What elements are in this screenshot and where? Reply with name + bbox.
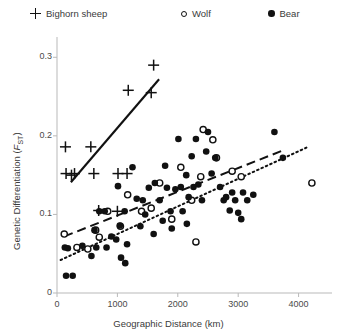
x-tick-label: 2000	[164, 299, 192, 309]
data-point-bear	[118, 254, 125, 261]
data-point-bear	[63, 272, 70, 279]
data-point-wolf	[178, 164, 184, 170]
data-point-bear	[65, 245, 72, 252]
y-axis-symbol-f: F	[11, 145, 22, 151]
data-point-bighorn-sheep	[85, 141, 96, 152]
y-tick-label: 0	[24, 287, 52, 297]
scatter-plot-figure: Bighorn sheep Wolf Bear Geographic Dista…	[0, 0, 337, 333]
data-point-bear	[175, 136, 182, 143]
data-point-bear	[205, 129, 212, 136]
y-tick-label: 0.3	[24, 51, 52, 61]
data-point-bear	[184, 221, 191, 228]
data-point-bighorn-sheep	[146, 87, 157, 98]
data-point-bighorn-sheep	[66, 170, 77, 181]
data-point-bear	[167, 208, 174, 215]
data-point-bear	[250, 191, 257, 198]
data-point-wolf	[169, 216, 175, 222]
x-axis-title: Geographic Distance (km)	[0, 318, 337, 329]
data-point-bear	[178, 184, 185, 191]
data-point-bear	[212, 155, 219, 162]
data-point-bear	[223, 194, 230, 201]
data-point-bear	[199, 197, 206, 204]
data-point-bear	[203, 148, 210, 155]
data-point-bighorn-sheep	[88, 168, 99, 179]
data-point-bear	[113, 236, 120, 243]
data-point-bear	[162, 162, 169, 169]
data-point-bear	[91, 227, 98, 234]
data-point-bear	[150, 231, 157, 238]
y-axis-subscript-st: ST	[17, 136, 24, 145]
y-axis-title-close: )	[11, 132, 22, 135]
data-point-wolf	[61, 231, 67, 237]
data-point-bear	[133, 195, 140, 202]
trendline-bear	[61, 148, 307, 260]
data-point-bighorn-sheep	[112, 206, 123, 217]
data-point-bear	[168, 225, 175, 232]
data-point-wolf	[193, 239, 199, 245]
data-point-bear	[188, 153, 195, 160]
x-tick-label: 1000	[103, 299, 131, 309]
data-point-bear	[235, 210, 242, 217]
data-point-bear	[159, 217, 166, 224]
y-tick-label: 0.2	[24, 130, 52, 140]
data-point-bear	[146, 184, 153, 191]
data-point-bear	[103, 244, 110, 251]
data-point-wolf	[125, 192, 131, 198]
data-point-bear	[88, 253, 95, 260]
x-tick-label: 3000	[224, 299, 252, 309]
data-point-bear	[152, 180, 159, 187]
data-point-bear	[183, 172, 190, 179]
data-point-wolf	[238, 174, 244, 180]
data-point-bear	[139, 197, 146, 204]
data-point-bear	[156, 197, 163, 204]
data-point-bear	[280, 155, 287, 162]
trendline-bighorn-sheep	[71, 79, 159, 182]
data-point-wolf	[229, 168, 235, 174]
data-point-bear	[240, 189, 247, 196]
data-point-bear	[179, 208, 186, 215]
data-point-bear	[129, 164, 136, 171]
data-point-bear	[79, 243, 86, 250]
data-point-bighorn-sheep	[148, 60, 159, 71]
data-point-bighorn-sheep	[60, 141, 71, 152]
data-point-bear	[238, 216, 245, 223]
data-point-bear	[229, 189, 236, 196]
data-point-bear	[115, 183, 122, 190]
data-point-bighorn-sheep	[123, 85, 134, 96]
data-point-wolf	[96, 234, 102, 240]
data-point-bear	[121, 208, 128, 215]
data-point-bear	[271, 129, 278, 136]
data-point-bear	[101, 208, 108, 215]
data-point-bear	[185, 194, 192, 201]
data-point-bear	[142, 211, 149, 218]
data-point-bear	[232, 197, 239, 204]
data-point-bear	[193, 136, 200, 143]
data-point-bear	[93, 244, 100, 251]
y-tick-label: 0.1	[24, 208, 52, 218]
data-point-bear	[244, 197, 251, 204]
data-point-wolf	[148, 205, 154, 211]
plot-canvas	[0, 0, 337, 333]
data-point-wolf	[210, 137, 216, 143]
data-point-wolf	[198, 174, 204, 180]
x-tick-label: 4000	[285, 299, 313, 309]
data-point-bear	[208, 170, 215, 177]
data-point-bear	[124, 241, 131, 248]
data-point-bear	[226, 207, 233, 214]
data-point-wolf	[85, 246, 91, 252]
x-tick-label: 0	[43, 299, 71, 309]
y-axis-title: Genetic Differentiation (FST)	[11, 132, 24, 250]
data-point-bighorn-sheep	[69, 168, 80, 179]
data-point-bear	[195, 181, 202, 188]
data-point-bear	[164, 184, 171, 191]
data-point-wolf	[74, 244, 80, 250]
data-point-bear	[217, 184, 224, 191]
data-point-bear	[137, 223, 144, 230]
data-point-wolf	[309, 180, 315, 186]
y-axis-title-text: Genetic Differentiation (	[11, 150, 22, 250]
data-point-bear	[69, 272, 76, 279]
data-point-bear	[122, 260, 129, 267]
data-point-bear	[117, 222, 124, 229]
